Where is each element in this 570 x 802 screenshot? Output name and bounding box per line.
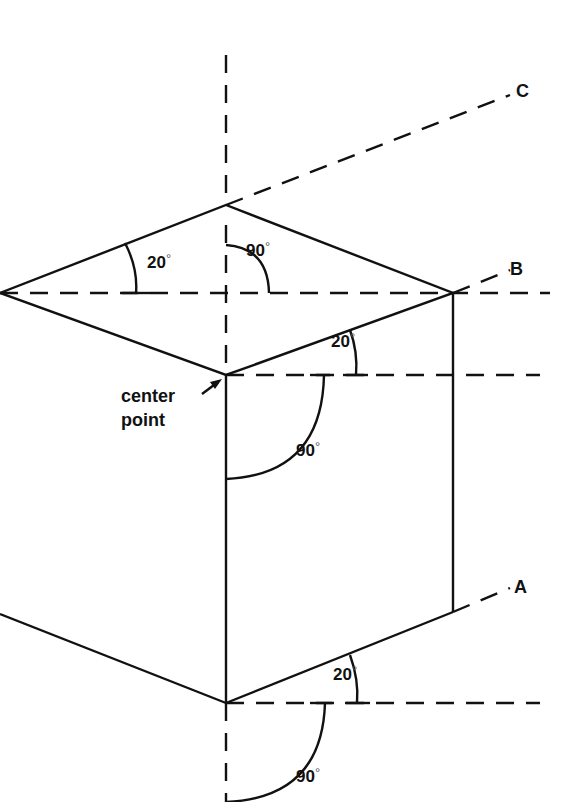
axis-label-b: B (510, 259, 523, 279)
bottom-left-edge (0, 614, 226, 703)
angle-label-mid-center: 90° (296, 439, 320, 460)
angle-arc-mid-center (226, 375, 324, 479)
angle-label-bottom-right: 20° (333, 663, 357, 684)
center-label-line2: point (121, 410, 165, 430)
angle-label-top-right: 90° (246, 239, 270, 260)
angle-arc-top-left (125, 243, 136, 293)
angle-label-mid-right: 20° (331, 330, 355, 351)
center-label-line1: center (121, 386, 175, 406)
axis-label-a: A (514, 577, 527, 597)
angle-arc-bottom-center (226, 703, 325, 802)
angle-label-bottom-center: 90° (296, 765, 320, 786)
axis-label-c: C (516, 81, 529, 101)
box-diagram: C B A center point 20° 90° 20° 90° 20° 9… (0, 0, 570, 802)
axis-c-line (226, 95, 510, 205)
bottom-right-edge (226, 612, 453, 703)
axis-a-line (453, 588, 510, 612)
angle-label-top-left: 20° (147, 251, 171, 272)
axis-b-line (453, 270, 510, 293)
